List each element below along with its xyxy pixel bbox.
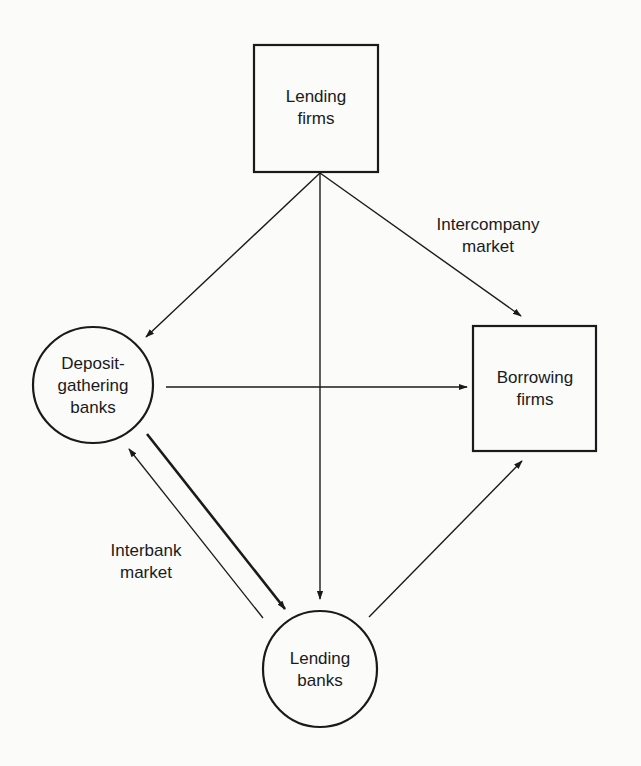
intercompany-label-line-2: market xyxy=(437,236,540,258)
intercompany-market-label: Intercompany market xyxy=(437,214,540,258)
interbank-label-line-1: Interbank xyxy=(111,540,182,562)
arrow-lending-firms-to-deposit-banks xyxy=(146,173,320,337)
interbank-label-line-2: market xyxy=(111,562,182,584)
borrowing-firms-label-line-2: firms xyxy=(497,389,574,411)
deposit-gathering-banks-label: Deposit- gathering banks xyxy=(58,353,129,419)
deposit-banks-label-line-2: gathering xyxy=(58,375,129,397)
lending-banks-label: Lending banks xyxy=(290,648,351,692)
arrow-lending-banks-to-borrowing-firms xyxy=(369,461,522,617)
arrow-lending-banks-to-deposit-banks xyxy=(129,449,263,618)
intercompany-label-line-1: Intercompany xyxy=(437,214,540,236)
lending-firms-label: Lending firms xyxy=(286,86,347,130)
lending-banks-label-line-2: banks xyxy=(290,670,351,692)
lending-banks-label-line-1: Lending xyxy=(290,648,351,670)
interbank-market-label: Interbank market xyxy=(111,540,182,584)
deposit-banks-label-line-3: banks xyxy=(58,397,129,419)
lending-firms-label-line-2: firms xyxy=(286,108,347,130)
lending-firms-label-line-1: Lending xyxy=(286,86,347,108)
borrowing-firms-label: Borrowing firms xyxy=(497,367,574,411)
deposit-banks-label-line-1: Deposit- xyxy=(58,353,129,375)
borrowing-firms-label-line-1: Borrowing xyxy=(497,367,574,389)
